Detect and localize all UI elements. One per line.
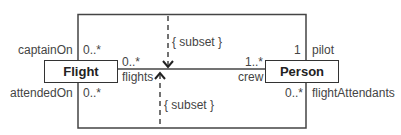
role-pilot: pilot — [312, 44, 334, 56]
mult-captainOn: 0..* — [83, 44, 101, 56]
role-captainOn: captainOn — [18, 44, 73, 56]
constraint-subset-lower: { subset } — [164, 99, 214, 111]
role-flights: flights — [122, 71, 153, 83]
mult-flights: 0..* — [122, 56, 140, 68]
role-attendedOn: attendedOn — [10, 87, 73, 99]
mult-crew: 1..* — [245, 56, 263, 68]
mult-pilot: 1 — [294, 44, 301, 56]
class-person[interactable]: Person — [265, 60, 339, 83]
class-person-name: Person — [280, 64, 324, 79]
role-crew: crew — [238, 71, 263, 83]
class-flight-name: Flight — [63, 64, 98, 79]
mult-flightAttendants: 0..* — [285, 87, 303, 99]
role-flightAttendants: flightAttendants — [312, 87, 395, 99]
constraint-subset-upper: { subset } — [172, 36, 222, 48]
class-flight[interactable]: Flight — [44, 60, 118, 83]
mult-attendedOn: 0..* — [83, 87, 101, 99]
